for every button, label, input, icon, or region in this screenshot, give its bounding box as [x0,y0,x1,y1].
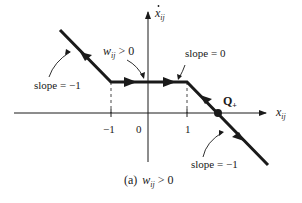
flow-arrow-icon [163,77,176,87]
pointer-arrow-icon [177,74,182,80]
flow-arrow-icon [200,95,212,104]
tick-label-one: 1 [185,123,191,135]
tick-label-minus-one: −1 [103,123,115,135]
equilibrium-point [214,109,222,117]
pointer-arrow-icon [49,52,70,77]
equilibrium-label: Q+ [223,94,237,110]
slope-left-label: slope = −1 [34,79,81,91]
pointer-arrow-icon [65,49,71,55]
weight-condition-label: wij > 0 [103,44,134,60]
pointer-arrow-icon [219,130,224,136]
figure-caption: (a)wij > 0 [124,173,174,189]
y-axis-label: xij [154,6,166,22]
time-derivative-dot [158,5,160,7]
phase-curve [60,30,268,165]
pointer-arrow-icon [203,132,223,157]
slope-flat-label: slope = 0 [185,47,226,59]
tick-label-zero: 0 [136,123,142,135]
slope-right-label: slope = −1 [191,158,238,170]
x-axis-label: xij [275,105,287,121]
flow-arrow-icon [124,77,137,87]
phase-diagram: xij xij −1 0 1 slope = −1 slope = 0 slop… [0,0,302,203]
